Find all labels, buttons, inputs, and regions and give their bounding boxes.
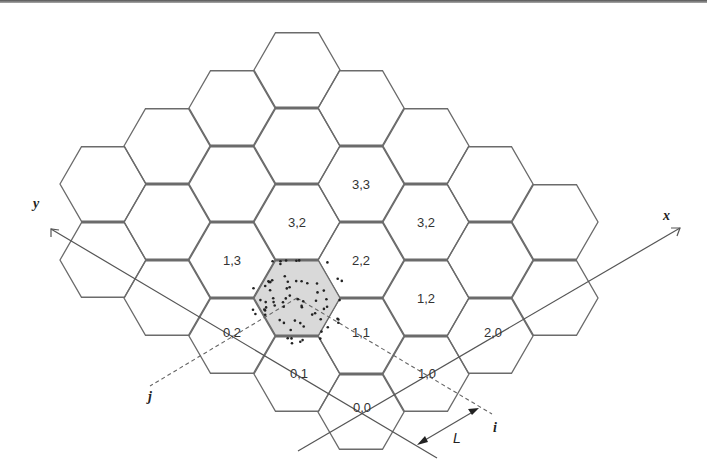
sample-point (279, 260, 282, 263)
sample-point (299, 340, 302, 343)
sample-point (302, 300, 305, 303)
sample-point (311, 313, 314, 316)
sample-point (285, 259, 288, 262)
sample-point (295, 280, 298, 283)
sample-point (264, 309, 267, 312)
sample-point (337, 321, 340, 324)
hex-cell (189, 147, 275, 221)
sample-point (278, 319, 281, 322)
sample-point (300, 280, 303, 283)
hex-cell (60, 147, 146, 221)
sample-point (273, 304, 276, 307)
cell-label: 0,0 (353, 400, 371, 415)
sample-point (264, 285, 267, 288)
cell-label: 1,1 (352, 325, 370, 340)
cell-label: 3,3 (352, 177, 370, 192)
cell-label: 3,2 (417, 215, 435, 230)
sample-point (302, 325, 305, 328)
sample-point (291, 342, 294, 345)
sample-point (284, 275, 287, 278)
sample-point (341, 280, 344, 283)
sample-point (294, 319, 297, 322)
sample-point (323, 308, 326, 311)
y-axis-label: y (31, 196, 40, 211)
sample-point (319, 337, 322, 340)
cell-label: 3,2 (288, 215, 306, 230)
cell-label: 1,2 (417, 291, 435, 306)
sample-point (323, 289, 326, 292)
hex-cell (124, 185, 210, 259)
sample-point (283, 322, 286, 325)
sample-point (319, 318, 322, 321)
length-label: L (453, 430, 461, 446)
hex-cell (512, 185, 598, 259)
hex-cell (447, 147, 533, 221)
sample-point (295, 260, 298, 263)
sample-point (272, 301, 275, 304)
sample-point (269, 289, 272, 292)
sample-point (271, 279, 274, 282)
sample-point (267, 280, 270, 283)
sample-point (290, 337, 293, 340)
sample-point (325, 298, 328, 301)
hex-cells (60, 33, 598, 449)
cell-label: 2,2 (352, 253, 370, 268)
sample-point (336, 278, 339, 281)
sample-point (326, 306, 329, 309)
sample-point (286, 337, 289, 340)
sample-point (287, 280, 290, 283)
sample-point (316, 291, 319, 294)
cell-label: 0,1 (290, 366, 308, 381)
hex-cell (447, 223, 533, 297)
sample-point (327, 326, 330, 329)
sample-point (279, 263, 282, 266)
j-axis-label: j (146, 389, 152, 404)
sample-point (285, 297, 288, 300)
hex-cell (189, 71, 275, 145)
hex-cell (124, 109, 210, 183)
sample-point (297, 298, 300, 301)
sample-point (264, 314, 267, 317)
sample-point (282, 306, 285, 309)
sample-point (299, 322, 302, 325)
hex-cell (254, 109, 340, 183)
sample-point (301, 339, 304, 342)
sample-point (315, 300, 318, 303)
i-axis-label: i (493, 420, 497, 435)
sample-point (286, 287, 289, 290)
sample-point (282, 301, 285, 304)
sample-point (252, 287, 255, 290)
sample-point (300, 305, 303, 308)
length-arrowhead-start-icon (417, 436, 428, 445)
sample-point (254, 313, 257, 316)
sample-point (337, 318, 340, 321)
cell-label: 0,2 (223, 325, 241, 340)
length-dimension-line (420, 410, 476, 443)
sample-point (289, 329, 292, 332)
sample-point (264, 301, 267, 304)
sample-point (288, 286, 291, 289)
sample-point (316, 282, 319, 285)
cell-label: 2,0 (484, 325, 502, 340)
sample-point (289, 294, 292, 297)
hexagonal-grid-diagram: y x i j L 3,33,23,21,32,21,20,21,12,00,1… (0, 0, 707, 476)
sample-point (306, 282, 309, 285)
sample-point (326, 261, 329, 264)
sample-point (320, 330, 323, 333)
sample-point (271, 260, 274, 263)
sample-point (272, 297, 275, 300)
sample-point (298, 259, 301, 262)
x-axis-label: x (662, 208, 670, 223)
cell-label: 1,0 (418, 366, 436, 381)
hex-cell (318, 71, 404, 145)
hex-cell (254, 33, 340, 107)
sample-point (252, 309, 255, 312)
cell-label: 1,3 (223, 253, 241, 268)
hex-cell (383, 109, 469, 183)
sample-point (265, 306, 268, 309)
sample-point (259, 299, 262, 302)
sample-point (314, 312, 317, 315)
sample-point (338, 299, 341, 302)
y-axis-line (51, 229, 437, 458)
hex-cell (512, 261, 598, 335)
